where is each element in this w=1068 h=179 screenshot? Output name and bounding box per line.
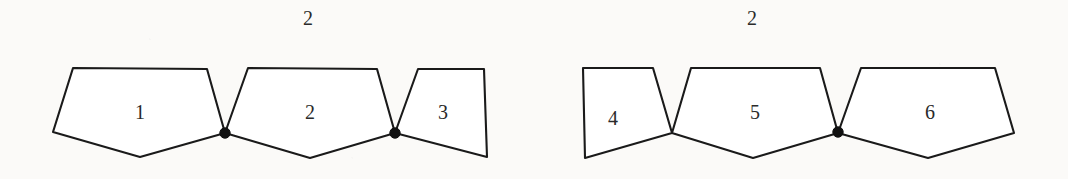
right-diagram <box>583 68 1014 158</box>
cell-label-5: 5 <box>750 102 760 122</box>
pentagon-cell-4 <box>583 68 672 158</box>
group-label-left-diagram: 2 <box>303 8 313 28</box>
group-label-right-diagram: 2 <box>747 8 757 28</box>
left-diagram <box>53 68 487 158</box>
cell-label-4: 4 <box>608 108 618 128</box>
vertex-dot <box>220 128 230 138</box>
cell-label-2: 2 <box>305 102 315 122</box>
vertex-dot <box>390 128 400 138</box>
cell-label-3: 3 <box>438 102 448 122</box>
shape-layer <box>53 68 1014 158</box>
vertex-dot <box>833 127 843 137</box>
cell-label-1: 1 <box>135 102 145 122</box>
pentagon-chain-diagram <box>0 0 1068 179</box>
figure-canvas: 12324562 <box>0 0 1068 179</box>
cell-label-6: 6 <box>925 102 935 122</box>
